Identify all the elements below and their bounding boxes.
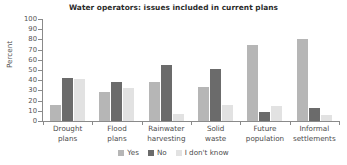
y-axis-ticks: 0102030405060708090100 (0, 19, 42, 121)
bar (259, 112, 270, 121)
bar-group (240, 19, 289, 121)
bar (161, 65, 172, 121)
x-category-label-line: Informal (290, 124, 339, 134)
x-category-label-line: waste (191, 134, 240, 144)
legend-swatch-icon (118, 150, 124, 156)
x-category-label-line: population (240, 134, 289, 144)
x-category-label-line: Rainwater (142, 124, 191, 134)
x-tick-mark (191, 121, 192, 125)
bar (297, 39, 308, 121)
x-category-label: Floodplans (92, 124, 141, 143)
bar (321, 115, 332, 121)
legend-swatch-icon (176, 150, 182, 156)
bar (173, 114, 184, 121)
bar (74, 79, 85, 121)
x-category-label-line: Future (240, 124, 289, 134)
bar (99, 92, 110, 121)
x-tick-mark (92, 121, 93, 125)
legend-label: I don't know (185, 148, 229, 157)
bar (111, 82, 122, 121)
y-tick-label: 80 (1, 36, 37, 43)
y-tick-label: 60 (1, 56, 37, 63)
x-category-label-line: Solid (191, 124, 240, 134)
legend-item[interactable]: I don't know (176, 148, 229, 157)
bar (198, 87, 209, 121)
bar-groups (43, 19, 339, 121)
legend-swatch-icon (148, 150, 154, 156)
bar (149, 82, 160, 121)
y-tick-label: 10 (1, 107, 37, 114)
y-tick-label: 0 (1, 118, 37, 125)
chart-legend: YesNoI don't know (0, 148, 347, 157)
bar-group (142, 19, 191, 121)
legend-label: No (157, 148, 167, 157)
x-category-label: Informalsettlements (290, 124, 339, 143)
y-tick-label: 90 (1, 26, 37, 33)
bar-group (92, 19, 141, 121)
bar-chart: Water operators: issues included in curr… (0, 0, 347, 165)
bar-group (290, 19, 339, 121)
legend-item[interactable]: No (148, 148, 167, 157)
bar (50, 105, 61, 121)
x-category-label-line: plans (43, 134, 92, 144)
y-tick-label: 40 (1, 77, 37, 84)
x-category-label: Droughtplans (43, 124, 92, 143)
bar (123, 88, 134, 121)
x-category-label-line: Drought (43, 124, 92, 134)
bar (62, 78, 73, 121)
x-category-label-line: plans (92, 134, 141, 144)
x-category-label: Solidwaste (191, 124, 240, 143)
bar (210, 69, 221, 121)
y-tick-label: 30 (1, 87, 37, 94)
y-tick-label: 50 (1, 67, 37, 74)
bar-group (191, 19, 240, 121)
x-axis-category-labels: DroughtplansFloodplansRainwaterharvestin… (43, 124, 339, 143)
x-category-label-line: harvesting (142, 134, 191, 144)
y-tick-label: 100 (1, 16, 37, 23)
x-category-label: Rainwaterharvesting (142, 124, 191, 143)
bar (309, 108, 320, 121)
bar (271, 106, 282, 121)
x-tick-mark (43, 121, 44, 125)
x-tick-mark (142, 121, 143, 125)
x-tick-mark (240, 121, 241, 125)
legend-label: Yes (127, 148, 139, 157)
x-tick-mark (339, 121, 340, 125)
bar (247, 45, 258, 122)
legend-item[interactable]: Yes (118, 148, 139, 157)
bar (222, 105, 233, 121)
x-category-label: Futurepopulation (240, 124, 289, 143)
y-tick-label: 20 (1, 97, 37, 104)
x-tick-mark (290, 121, 291, 125)
y-tick-label: 70 (1, 46, 37, 53)
x-category-label-line: settlements (290, 134, 339, 144)
chart-title: Water operators: issues included in curr… (0, 3, 347, 12)
bar-group (43, 19, 92, 121)
x-category-label-line: Flood (92, 124, 141, 134)
